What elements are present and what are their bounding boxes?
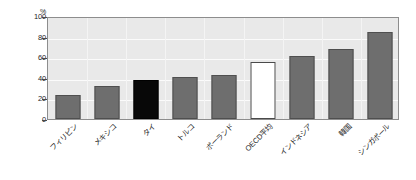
x-axis-category-labels: フィリピンメキシコタイトルコポーランドOECD平均インドネシア韓国シンガポール — [47, 122, 399, 180]
plot-area — [47, 17, 399, 120]
bar — [172, 77, 197, 119]
x-axis-category-label: フィリピン — [48, 122, 79, 153]
x-axis-category-label: インドネシア — [278, 122, 314, 158]
bar-slot — [48, 18, 87, 119]
bar-slot — [244, 18, 283, 119]
bar-slot — [165, 18, 204, 119]
y-axis-tickmark — [42, 38, 47, 39]
y-axis-tickmark — [42, 17, 47, 18]
y-axis-tickmark — [42, 99, 47, 100]
y-axis-tickmark — [42, 120, 47, 121]
x-axis-category-label: メキシコ — [92, 122, 118, 148]
bar-slot — [204, 18, 243, 119]
bar — [211, 75, 236, 119]
x-axis-category-label: タイ — [141, 122, 157, 138]
x-axis-category-label: シンガポール — [356, 122, 392, 158]
y-axis-tick-labels: 020406080100 — [14, 17, 46, 120]
bar — [133, 80, 158, 119]
bar-slot — [87, 18, 126, 119]
x-axis-category-label: ポーランド — [205, 122, 236, 153]
bar-series — [48, 18, 398, 119]
bar-slot — [126, 18, 165, 119]
bar — [251, 62, 276, 119]
bar — [55, 95, 80, 119]
bar-slot — [361, 18, 399, 119]
y-axis-tickmark — [42, 79, 47, 80]
x-axis-category-label: 韓国 — [337, 122, 353, 138]
bar — [94, 86, 119, 119]
bar-chart-figure: % 020406080100 フィリピンメキシコタイトルコポーランドOECD平均… — [0, 0, 416, 180]
bar — [368, 32, 393, 119]
x-axis-category-label: OECD平均 — [243, 122, 274, 153]
bar — [290, 56, 315, 119]
bar — [329, 49, 354, 119]
bar-slot — [283, 18, 322, 119]
y-axis-tickmark — [42, 58, 47, 59]
x-axis-category-label: トルコ — [175, 122, 196, 143]
bar-slot — [322, 18, 361, 119]
